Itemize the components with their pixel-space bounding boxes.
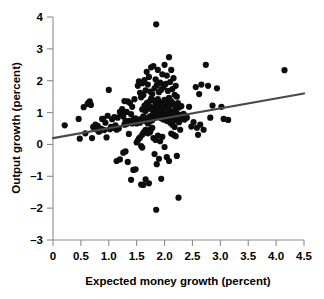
- data-point: [198, 81, 204, 87]
- data-point: [225, 117, 231, 123]
- data-point: [103, 134, 109, 140]
- data-point: [155, 67, 161, 73]
- data-point: [205, 83, 211, 89]
- y-tick-label: 3: [37, 43, 43, 55]
- data-point: [173, 83, 179, 89]
- data-point: [281, 67, 287, 73]
- data-point: [122, 148, 128, 154]
- data-point: [175, 195, 181, 201]
- data-point: [201, 127, 207, 133]
- data-point: [126, 131, 132, 137]
- y-tick-label: 2: [37, 75, 43, 87]
- x-tick-label: 1.0: [101, 250, 117, 262]
- data-point: [172, 124, 178, 130]
- data-point: [207, 115, 213, 121]
- x-tick-label: 2.0: [157, 250, 173, 262]
- data-point: [164, 73, 170, 79]
- data-point: [156, 156, 162, 162]
- data-point: [166, 54, 172, 60]
- y-tick-label: 1: [37, 107, 44, 119]
- y-tick-label: –3: [30, 234, 43, 246]
- x-tick-label: 2.5: [184, 250, 201, 262]
- x-tick-label: 4.5: [296, 250, 313, 262]
- data-point: [76, 116, 82, 122]
- data-point: [145, 81, 151, 87]
- x-tick-label: 1.5: [129, 250, 146, 262]
- data-point: [153, 21, 159, 27]
- data-point: [89, 135, 95, 141]
- x-tick-label: 4.0: [268, 250, 284, 262]
- data-point: [154, 161, 160, 167]
- x-tick-label: 0: [50, 250, 56, 262]
- chart-canvas: –3–2–101234 00.51.01.52.02.53.03.54.04.5…: [0, 0, 324, 299]
- data-point: [132, 166, 138, 172]
- y-tick-label: –1: [30, 170, 43, 182]
- data-point: [161, 62, 167, 68]
- data-point: [195, 132, 201, 138]
- data-point: [170, 75, 176, 81]
- data-point: [168, 67, 174, 73]
- y-axis-title: Output growth (percent): [10, 62, 22, 194]
- data-point: [125, 159, 131, 165]
- data-point: [196, 91, 202, 97]
- y-tick-label: 0: [37, 138, 43, 150]
- data-point: [151, 151, 157, 157]
- y-tick-label: –2: [30, 202, 43, 214]
- scatter-plot-figure: –3–2–101234 00.51.01.52.02.53.03.54.04.5…: [0, 0, 324, 299]
- x-axis-ticks: 00.51.01.52.02.53.03.54.04.5: [50, 240, 313, 262]
- x-tick-label: 0.5: [73, 250, 90, 262]
- data-point: [193, 84, 199, 90]
- data-point: [102, 120, 108, 126]
- x-tick-label: 3.0: [212, 250, 228, 262]
- data-point: [131, 96, 137, 102]
- data-point: [174, 94, 180, 100]
- data-point: [117, 156, 123, 162]
- data-point: [140, 182, 146, 188]
- data-point: [197, 122, 203, 128]
- y-tick-label: 4: [37, 11, 44, 23]
- data-point: [153, 207, 159, 213]
- data-point: [190, 119, 196, 125]
- data-point: [128, 177, 134, 183]
- data-point: [62, 122, 68, 128]
- data-point: [203, 62, 209, 68]
- data-point: [149, 91, 155, 97]
- data-point: [161, 144, 167, 150]
- data-point: [146, 180, 152, 186]
- data-point: [173, 133, 179, 139]
- data-point: [209, 102, 215, 108]
- data-point: [158, 176, 164, 182]
- data-point: [146, 74, 152, 80]
- data-point: [139, 145, 145, 151]
- data-point: [106, 87, 112, 93]
- data-point: [77, 136, 83, 142]
- data-point: [186, 104, 192, 110]
- data-point: [174, 153, 180, 159]
- x-axis-title: Expected money growth (percent): [85, 275, 270, 287]
- data-point: [178, 103, 184, 109]
- data-point: [129, 104, 135, 110]
- data-point: [177, 127, 183, 133]
- data-point: [88, 102, 94, 108]
- data-point: [214, 85, 220, 91]
- data-point: [149, 125, 155, 131]
- data-point: [166, 158, 172, 164]
- x-tick-label: 3.5: [240, 250, 257, 262]
- data-point: [159, 134, 165, 140]
- y-axis-ticks: –3–2–101234: [30, 11, 53, 246]
